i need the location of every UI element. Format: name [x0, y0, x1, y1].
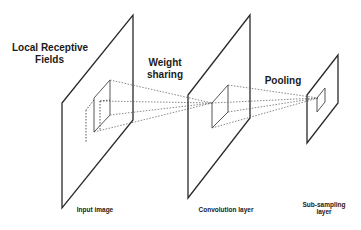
label-line: Sub-sampling: [298, 201, 350, 208]
label-subsampling-layer: Sub-sampling layer: [298, 201, 350, 216]
receptive-field-box: [86, 80, 110, 143]
label-input-image: Input image: [70, 206, 120, 213]
label-local-receptive-fields: Local Receptive Fields: [12, 42, 87, 65]
convolution-box: [212, 85, 228, 128]
label-line: Local Receptive: [12, 42, 87, 54]
cnn-diagram: [0, 0, 361, 230]
label-convolution-layer: Convolution layer: [195, 206, 257, 213]
label-weight-sharing: Weight sharing: [140, 57, 190, 80]
label-line: Fields: [12, 54, 87, 66]
pooling-window: [317, 88, 325, 112]
label-line: layer: [298, 208, 350, 215]
label-line: sharing: [140, 69, 190, 81]
label-line: Weight: [140, 57, 190, 69]
label-pooling: Pooling: [262, 75, 304, 87]
